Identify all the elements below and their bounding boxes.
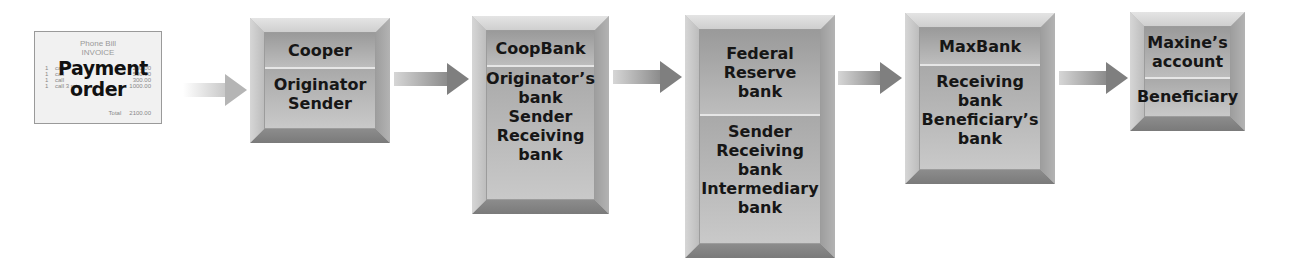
node-roles: Beneficiary [1145,79,1230,116]
invoice-header-line2: INVOICE [35,48,161,57]
node-roles: Receiving bank Beneficiary’s bank [920,66,1040,169]
invoice-header-line1: Phone Bill [35,39,161,48]
invoice-total-value: 2100.00 [129,110,151,116]
node-roles: Originator’s bank Sender Receiving bank [487,67,594,199]
arrow-right-icon [838,62,902,94]
node-maxines-account: Maxine’s account Beneficiary [1130,12,1245,131]
row-qty: 1 [45,83,55,89]
invoice-header: Phone Bill INVOICE [35,39,161,57]
invoice-total-label: Total [109,110,122,116]
arrow-right-icon [183,74,247,106]
node-name: Federal Reserve bank [700,30,820,116]
arrow-right-icon [613,61,682,93]
node-coopbank: CoopBank Originator’s bank Sender Receiv… [472,16,609,214]
node-name: CoopBank [487,31,594,67]
node-name: MaxBank [920,28,1040,66]
node-name: Cooper [265,33,375,69]
node-roles: Sender Receiving bank Intermediary bank [700,116,820,243]
arrow-right-icon [394,63,469,95]
node-maxbank: MaxBank Receiving bank Beneficiary’s ban… [905,13,1055,184]
node-federal-reserve: Federal Reserve bank Sender Receiving ba… [685,15,835,258]
payment-order-title: Payment order [58,58,138,100]
node-cooper: Cooper Originator Sender [250,18,390,143]
invoice-total: Total2100.00 [101,110,151,116]
arrow-right-icon [1059,62,1128,94]
node-name: Maxine’s account [1145,27,1230,79]
payment-order-invoice: Phone Bill INVOICE 1call200.00 1call500.… [34,31,162,124]
node-roles: Originator Sender [265,69,375,128]
